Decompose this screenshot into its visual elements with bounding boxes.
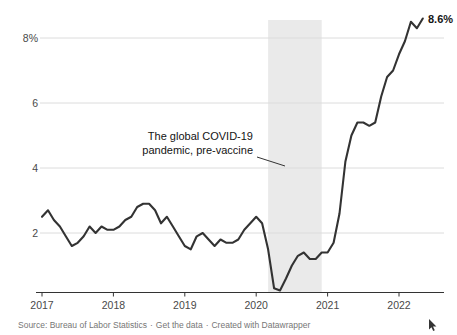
x-axis-label-2018: 2018 <box>102 299 125 311</box>
separator-dot: · <box>150 320 153 330</box>
separator-dot: · <box>206 320 209 330</box>
annotation-line-2: pandemic, pre-vaccine <box>142 144 253 158</box>
line-chart-canvas <box>0 0 457 335</box>
y-axis-label-2: 2 <box>0 227 38 239</box>
y-axis-label-4: 4 <box>0 162 38 174</box>
latest-value-label: 8.6% <box>428 13 453 25</box>
covid-annotation: The global COVID-19 pandemic, pre-vaccin… <box>142 130 253 157</box>
source-text: Source: Bureau of Labor Statistics <box>18 320 147 330</box>
x-axis-label-2017: 2017 <box>30 299 53 311</box>
source-footer: Source: Bureau of Labor Statistics·Get t… <box>18 320 310 330</box>
x-axis-label-2021: 2021 <box>316 299 339 311</box>
x-axis-label-2020: 2020 <box>245 299 268 311</box>
inflation-line-chart: The global COVID-19 pandemic, pre-vaccin… <box>0 0 457 335</box>
x-axis-label-2019: 2019 <box>173 299 196 311</box>
mouse-cursor-icon <box>428 319 439 333</box>
pandemic-shaded-region <box>268 20 322 293</box>
y-axis-label-6: 6 <box>0 97 38 109</box>
annotation-line-1: The global COVID-19 <box>142 130 253 144</box>
datawrapper-link[interactable]: Datawrapper <box>262 320 311 330</box>
get-the-data-link[interactable]: Get the data <box>156 320 203 330</box>
x-axis-label-2022: 2022 <box>387 299 410 311</box>
created-with-text: Created with <box>211 320 259 330</box>
y-axis-label-8: 8% <box>0 32 38 44</box>
